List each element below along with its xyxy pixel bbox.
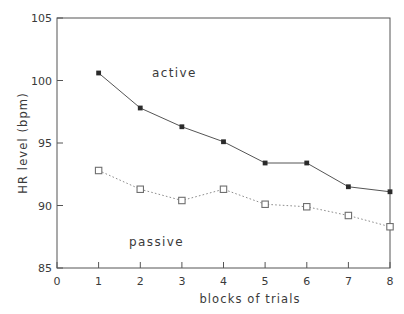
series-annotation-active: active	[152, 66, 197, 80]
x-tick-label-3: 3	[178, 275, 185, 288]
chart-figure: 105 100 95 90 85 0 1 2 3 4 5 6 7 8 HR le…	[0, 0, 404, 314]
x-tick-label-4: 4	[220, 275, 227, 288]
x-tick-label-2: 2	[137, 275, 144, 288]
data-point-active-8	[388, 190, 391, 193]
hr-level-line-chart: 105 100 95 90 85 0 1 2 3 4 5 6 7 8 HR le…	[0, 0, 404, 314]
data-point-active-3	[180, 125, 183, 128]
data-point-passive-5	[262, 201, 268, 207]
x-tick-label-0: 0	[54, 275, 61, 288]
x-tick-label-1: 1	[95, 275, 102, 288]
y-tick-label-105: 105	[31, 12, 52, 25]
data-point-active-6	[305, 161, 308, 164]
data-point-active-4	[222, 140, 225, 143]
x-tick-label-6: 6	[303, 275, 310, 288]
x-axis-ticks	[57, 262, 390, 268]
x-tick-label-5: 5	[262, 275, 269, 288]
data-point-passive-1	[95, 167, 101, 173]
data-point-passive-6	[304, 204, 310, 210]
data-point-passive-2	[137, 186, 143, 192]
series-line-active	[99, 73, 390, 192]
series-annotation-passive: passive	[129, 235, 184, 249]
data-point-active-1	[97, 71, 100, 74]
y-tick-label-90: 90	[38, 200, 52, 213]
data-point-passive-4	[220, 186, 226, 192]
series-markers-passive	[95, 167, 393, 230]
y-tick-label-95: 95	[38, 137, 52, 150]
data-point-passive-7	[345, 212, 351, 218]
x-tick-label-8: 8	[387, 275, 394, 288]
data-point-active-7	[347, 185, 350, 188]
y-axis-ticks	[57, 18, 63, 268]
x-axis-title: blocks of trials	[199, 292, 300, 306]
y-tick-label-85: 85	[38, 262, 52, 275]
data-point-passive-8	[387, 224, 393, 230]
y-tick-label-100: 100	[31, 75, 52, 88]
data-point-passive-3	[179, 197, 185, 203]
x-tick-label-7: 7	[345, 275, 352, 288]
data-point-active-5	[264, 161, 267, 164]
y-axis-title: HR level (bpm)	[16, 92, 30, 193]
data-point-active-2	[139, 106, 142, 109]
series-markers-active	[97, 71, 392, 193]
